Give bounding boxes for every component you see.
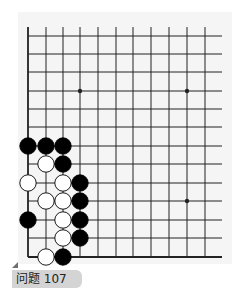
corner-triangle-icon bbox=[12, 262, 18, 268]
black-stone bbox=[55, 156, 71, 172]
white-stone bbox=[55, 175, 71, 191]
star-point bbox=[185, 89, 189, 93]
star-point bbox=[78, 89, 82, 93]
problem-number-label: 问题 107 bbox=[12, 270, 82, 288]
black-stone bbox=[55, 138, 71, 154]
white-stone bbox=[55, 212, 71, 228]
black-stone bbox=[72, 212, 88, 228]
black-stone bbox=[72, 193, 88, 209]
star-point bbox=[185, 199, 189, 203]
black-stone bbox=[72, 230, 88, 246]
go-board bbox=[0, 0, 244, 306]
white-stone bbox=[20, 175, 36, 191]
black-stone bbox=[20, 138, 36, 154]
black-stone bbox=[72, 175, 88, 191]
black-stone bbox=[20, 212, 36, 228]
problem-label: 问题 107 bbox=[12, 262, 84, 290]
white-stone bbox=[38, 193, 54, 209]
black-stone bbox=[38, 138, 54, 154]
white-stone bbox=[55, 193, 71, 209]
white-stone bbox=[55, 230, 71, 246]
white-stone bbox=[38, 156, 54, 172]
